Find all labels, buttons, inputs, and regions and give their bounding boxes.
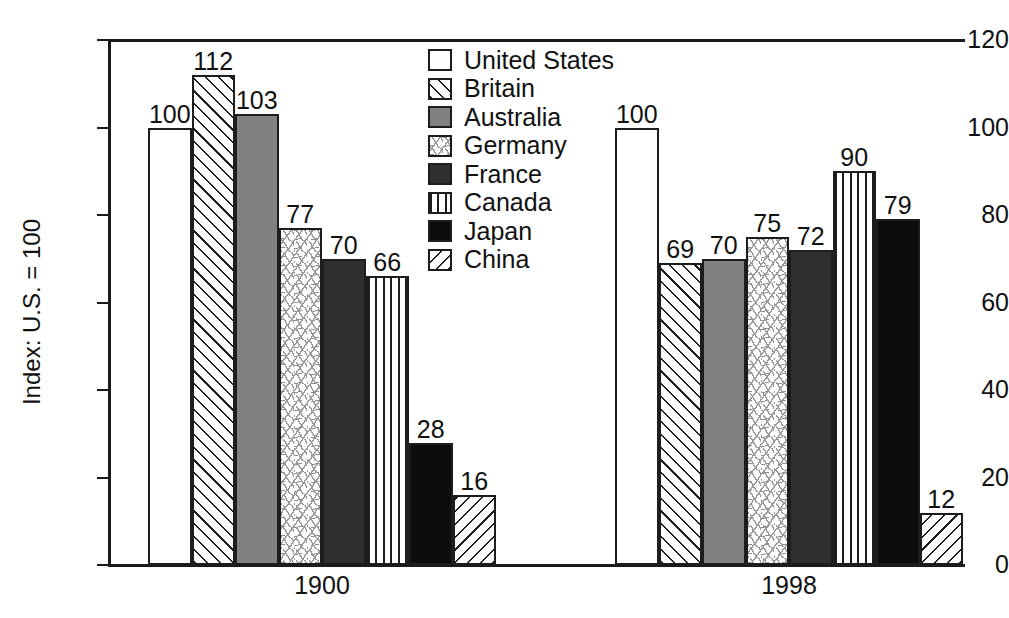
legend-item-united-states[interactable]: United States	[428, 46, 614, 75]
bar-japan-1998: 79	[876, 219, 920, 565]
x-axis-label-1998: 1998	[615, 572, 963, 598]
legend: United StatesBritainAustraliaGermanyFran…	[428, 46, 614, 274]
y-tick-mark-80	[97, 214, 109, 216]
bar-united-states-1900: 100	[148, 128, 192, 566]
y-tick-mark-120	[97, 39, 109, 41]
bar-japan-1900: 28	[409, 443, 453, 566]
bar-value-label: 77	[286, 201, 314, 227]
legend-swatch-france	[428, 163, 452, 185]
y-tick-mark-40	[97, 389, 109, 391]
bar-australia-1998: 70	[702, 259, 746, 565]
bar-france-1900: 70	[322, 259, 366, 565]
legend-label: China	[464, 247, 529, 272]
legend-label: Australia	[464, 105, 561, 130]
chart-canvas: Index: U.S. = 100 020406080100120 100112…	[0, 0, 1009, 618]
bar-australia-1900: 103	[235, 114, 279, 565]
legend-label: Britain	[464, 76, 535, 101]
bar-britain-1998: 69	[659, 263, 703, 565]
legend-label: Canada	[464, 190, 552, 215]
legend-swatch-canada	[428, 192, 452, 214]
bar-value-label: 100	[616, 101, 658, 127]
bar-britain-1900: 112	[192, 75, 236, 565]
legend-item-france[interactable]: France	[428, 160, 614, 189]
legend-swatch-japan	[428, 220, 452, 242]
bar-united-states-1998: 100	[615, 128, 659, 566]
bar-value-label: 16	[460, 468, 488, 494]
bar-germany-1900: 77	[279, 228, 323, 565]
bar-value-label: 112	[193, 48, 233, 74]
bar-value-label: 28	[417, 416, 445, 442]
legend-swatch-united-states	[428, 49, 452, 71]
bar-value-label: 79	[884, 192, 912, 218]
bar-china-1998: 12	[920, 513, 964, 566]
bar-china-1900: 16	[453, 495, 497, 565]
legend-label: Japan	[464, 219, 532, 244]
y-tick-mark-100	[97, 127, 109, 129]
bar-value-label: 70	[710, 232, 738, 258]
y-axis-title: Index: U.S. = 100	[20, 182, 44, 442]
legend-swatch-britain	[428, 78, 452, 100]
bar-value-label: 75	[753, 210, 781, 236]
bar-germany-1998: 75	[746, 237, 790, 565]
bar-value-label: 12	[927, 486, 955, 512]
bar-canada-1998: 90	[833, 171, 877, 565]
bar-group-1998: 10069707572907912	[615, 40, 963, 565]
legend-item-germany[interactable]: Germany	[428, 132, 614, 161]
y-tick-mark-20	[97, 477, 109, 479]
legend-item-canada[interactable]: Canada	[428, 189, 614, 218]
bar-value-label: 72	[797, 223, 825, 249]
bar-canada-1900: 66	[366, 276, 410, 565]
y-tick-mark-0	[97, 564, 109, 566]
legend-swatch-australia	[428, 106, 452, 128]
bar-value-label: 90	[840, 144, 868, 170]
legend-swatch-germany	[428, 135, 452, 157]
legend-swatch-china	[428, 249, 452, 271]
legend-label: France	[464, 162, 542, 187]
legend-item-japan[interactable]: Japan	[428, 217, 614, 246]
x-axis-label-1900: 1900	[148, 572, 496, 598]
legend-item-australia[interactable]: Australia	[428, 103, 614, 132]
legend-item-britain[interactable]: Britain	[428, 75, 614, 104]
bar-value-label: 100	[149, 101, 191, 127]
bar-value-label: 69	[666, 236, 694, 262]
legend-label: United States	[464, 48, 614, 73]
bar-value-label: 66	[373, 249, 401, 275]
legend-item-china[interactable]: China	[428, 246, 614, 275]
legend-label: Germany	[464, 133, 567, 158]
y-tick-mark-60	[97, 302, 109, 304]
bar-value-label: 103	[236, 87, 278, 113]
bar-france-1998: 72	[789, 250, 833, 565]
bar-value-label: 70	[330, 232, 358, 258]
